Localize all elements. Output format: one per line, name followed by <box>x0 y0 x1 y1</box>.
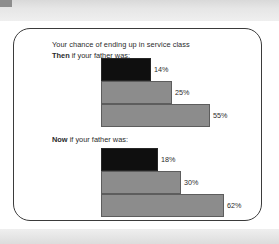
bar-intermediate <box>101 171 181 194</box>
figure-frame: Your chance of ending up in service clas… <box>13 28 262 221</box>
bar-working <box>101 148 158 171</box>
bar-value-label: 18% <box>161 148 175 171</box>
bar-intermediate <box>101 81 172 104</box>
figure-inner: Your chance of ending up in service clas… <box>14 29 263 222</box>
page-corner-mark <box>0 0 12 7</box>
bar-value-label: 55% <box>213 104 227 127</box>
page-scan-band-bottom <box>0 229 279 244</box>
bar-value-label: 30% <box>184 171 198 194</box>
section-header-now: Now if your father was: <box>52 135 128 144</box>
bar-working <box>101 58 151 81</box>
section-header-then: Then if your father was: <box>52 51 252 62</box>
page-scan-band-top <box>0 0 279 21</box>
bar-service <box>101 194 224 217</box>
section-header-then-emphasis: Then <box>52 51 70 60</box>
section-header-now-rest: if your father was: <box>68 135 128 144</box>
bar-value-label: 14% <box>154 58 168 81</box>
figure-title-block: Your chance of ending up in service clas… <box>52 40 252 61</box>
section-header-now-emphasis: Now <box>52 135 68 144</box>
bar-value-label: 62% <box>227 194 241 217</box>
bar-value-label: 25% <box>175 81 189 104</box>
bar-service <box>101 104 210 127</box>
figure-title: Your chance of ending up in service clas… <box>52 40 252 51</box>
